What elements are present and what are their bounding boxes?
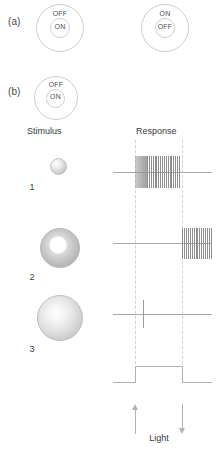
on-center-center-label: ON (50, 23, 70, 30)
panel-b-center-label: ON (46, 93, 65, 100)
panel-b-label: (b) (8, 86, 21, 97)
light-pulse-baseline-left (113, 382, 136, 383)
response-3-baseline (113, 314, 212, 315)
figure-receptive-fields: (a) OFF ON ON OFF (b) OFF ON Stimulus Re… (0, 0, 221, 449)
stimulus-column-heading: Stimulus (27, 126, 62, 136)
response-3-single-spike (143, 300, 144, 328)
light-pulse-high-level (135, 366, 183, 367)
on-center-surround-label: OFF (36, 10, 84, 17)
light-label: Light (133, 433, 185, 443)
light-pulse-rising-edge (135, 366, 136, 383)
off-center-surround-label: ON (141, 10, 189, 17)
stimulus-row-number-2: 2 (26, 272, 38, 282)
stimulus-row-number-3: 3 (26, 344, 38, 354)
stimulus-spot-large-full-field (37, 295, 83, 341)
response-1-burst-sustained (147, 156, 180, 188)
light-offset-arrow-shaft (182, 404, 183, 429)
panel-a-label: (a) (8, 16, 21, 27)
off-center-center-label: OFF (155, 23, 175, 30)
response-2-burst-offset (182, 228, 212, 259)
stimulus-spot-small-center (50, 158, 67, 175)
stimulus-spot-annulus (40, 228, 80, 268)
panel-b-surround-label: OFF (34, 81, 78, 88)
light-pulse-falling-edge (182, 366, 183, 383)
light-onset-arrow-shaft (135, 409, 136, 434)
stimulus-row-number-1: 1 (26, 182, 38, 192)
response-1-burst-onset (135, 156, 146, 188)
response-column-heading: Response (136, 126, 177, 136)
light-pulse-baseline-right (182, 382, 212, 383)
